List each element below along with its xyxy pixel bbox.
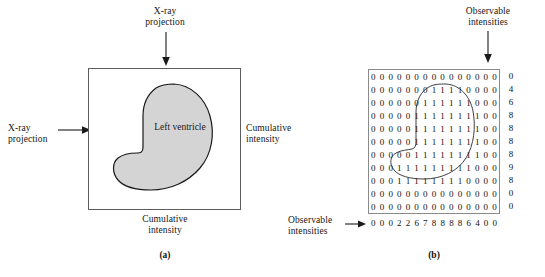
grid-cell: 0 (438, 187, 447, 200)
grid-cell: 1 (464, 148, 473, 161)
grid-cell: 0 (421, 70, 430, 83)
grid-cell: 1 (464, 96, 473, 109)
grid-cell: 0 (395, 200, 404, 213)
grid-cell: 0 (490, 187, 499, 200)
grid-cell: 0 (447, 187, 456, 200)
grid-cell: 0 (369, 174, 378, 187)
grid-cell: 0 (404, 135, 413, 148)
col-sum-value: 8 (447, 218, 456, 228)
grid-cell: 0 (490, 109, 499, 122)
grid-cell: 0 (378, 174, 387, 187)
grid-row: 000111111111000 (369, 161, 499, 174)
grid-cell: 1 (421, 96, 430, 109)
grid-cell: 1 (404, 161, 413, 174)
grid-cell: 1 (412, 135, 421, 148)
grid-cell: 1 (421, 122, 430, 135)
grid-cell: 1 (438, 83, 447, 96)
panel-a-right-label: Cumulative intensity (246, 123, 314, 145)
grid-cell: 0 (404, 96, 413, 109)
grid-cell: 1 (404, 174, 413, 187)
grid-cell: 0 (378, 135, 387, 148)
grid-cell: 0 (473, 96, 482, 109)
grid-cell: 0 (369, 122, 378, 135)
grid-cell: 0 (369, 161, 378, 174)
grid-cell: 0 (473, 200, 482, 213)
col-sum-value: 8 (456, 218, 465, 228)
grid-cell: 1 (473, 122, 482, 135)
grid-cell: 0 (412, 70, 421, 83)
grid-cell: 0 (395, 96, 404, 109)
grid-cell: 1 (438, 109, 447, 122)
grid-cell: 0 (473, 161, 482, 174)
grid-cell: 1 (395, 174, 404, 187)
xray-projection-down-arrow-icon (160, 32, 172, 68)
grid-cell: 0 (456, 187, 465, 200)
grid-cell: 0 (369, 109, 378, 122)
grid-cell: 0 (395, 109, 404, 122)
grid-cell: 1 (412, 122, 421, 135)
grid-cell: 1 (473, 135, 482, 148)
grid-cell: 0 (404, 83, 413, 96)
grid-cell: 1 (456, 161, 465, 174)
panel-a-bottom-label: Cumulative intensity (125, 214, 205, 236)
grid-cell: 0 (395, 83, 404, 96)
col-sum-value: 0 (369, 218, 378, 228)
grid-cell: 0 (456, 70, 465, 83)
panel-a-top-arrow-label: X-ray projection (125, 6, 205, 28)
grid-cell: 0 (404, 109, 413, 122)
grid-cell: 0 (438, 70, 447, 83)
grid-cell: 0 (482, 70, 491, 83)
row-sum-value: 0 (504, 200, 518, 213)
left-ventricle-shape (88, 68, 241, 210)
grid-cell: 0 (464, 200, 473, 213)
grid-cell: 0 (378, 96, 387, 109)
grid-cell: 1 (438, 148, 447, 161)
grid-cell: 1 (421, 135, 430, 148)
grid-cell: 1 (438, 122, 447, 135)
grid-cell: 1 (447, 96, 456, 109)
grid-cell: 0 (378, 70, 387, 83)
grid-cell: 0 (386, 70, 395, 83)
grid-cell: 0 (473, 187, 482, 200)
row-sum-value: 8 (504, 135, 518, 148)
grid-cell: 0 (395, 122, 404, 135)
grid-cell: 1 (430, 148, 439, 161)
xray-projection-right-arrow-icon (58, 124, 92, 136)
figure-root: X-ray projection X-ray projection Left v… (0, 0, 545, 277)
grid-cell: 1 (421, 174, 430, 187)
grid-cell: 0 (482, 174, 491, 187)
grid-cell: 1 (456, 122, 465, 135)
grid-cell: 1 (430, 109, 439, 122)
grid-cell: 1 (447, 174, 456, 187)
grid-cell: 1 (447, 83, 456, 96)
grid-cell: 0 (421, 187, 430, 200)
grid-cell: 0 (386, 135, 395, 148)
grid-cell: 0 (378, 187, 387, 200)
row-sum-value: 0 (504, 70, 518, 83)
grid-cell: 1 (464, 161, 473, 174)
grid-cell: 1 (464, 109, 473, 122)
grid-cell: 0 (482, 200, 491, 213)
grid-cell: 0 (456, 200, 465, 213)
grid-cell: 0 (482, 96, 491, 109)
col-sum-value: 7 (421, 218, 430, 228)
observable-intensities-down-arrow-icon (482, 31, 494, 65)
col-sum-value: 6 (464, 218, 473, 228)
grid-cell: 0 (473, 174, 482, 187)
panel-b-left-label: Observable intensities (288, 215, 350, 237)
grid-cell: 0 (369, 148, 378, 161)
grid-cell: 0 (395, 70, 404, 83)
grid-cell: 0 (369, 96, 378, 109)
grid-cell: 0 (378, 83, 387, 96)
row-sum-value: 8 (504, 174, 518, 187)
grid-cell: 1 (447, 148, 456, 161)
grid-row: 000111111110000 (369, 174, 499, 187)
grid-cell: 0 (412, 187, 421, 200)
grid-cell: 0 (386, 174, 395, 187)
grid-cell: 0 (404, 70, 413, 83)
grid-cell: 0 (378, 161, 387, 174)
grid-cell: 0 (482, 148, 491, 161)
col-sum-value: 0 (386, 218, 395, 228)
grid-cell: 1 (412, 148, 421, 161)
col-sum-value: 0 (378, 218, 387, 228)
